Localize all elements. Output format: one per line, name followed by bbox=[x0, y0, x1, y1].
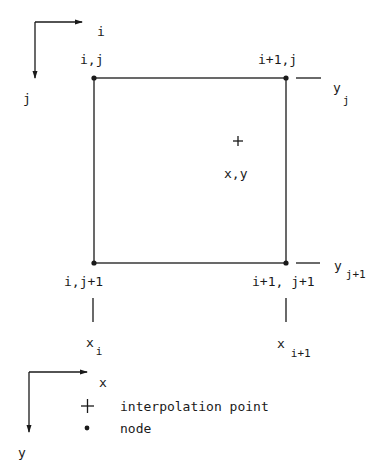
interpolation-point-label: x,y bbox=[224, 166, 248, 181]
legend-node-label: node bbox=[120, 421, 151, 436]
x-i-label: xi bbox=[86, 335, 102, 358]
y-j1-label: yj+1 bbox=[334, 258, 366, 281]
node-dot bbox=[91, 260, 96, 265]
x-axis-label: x bbox=[99, 375, 107, 390]
interpolation-point: x,y bbox=[224, 136, 248, 181]
node-label-i1-j1: i+1, j+1 bbox=[252, 274, 315, 289]
node-dot bbox=[91, 75, 96, 80]
y-axis-label: y bbox=[18, 445, 26, 460]
node-dot bbox=[283, 75, 288, 80]
i-axis-label: i bbox=[97, 24, 105, 39]
coordinate-axes: x y bbox=[18, 372, 107, 460]
j-axis-label: j bbox=[23, 91, 31, 106]
legend-node-dot-icon bbox=[85, 426, 90, 431]
legend-interpolation-point-label: interpolation point bbox=[120, 399, 269, 414]
legend: interpolation point node bbox=[81, 399, 269, 436]
x-i1-label: xi+1 bbox=[277, 336, 311, 360]
grid-cell bbox=[94, 78, 286, 263]
bilinear-interpolation-diagram: i j i,j i+1,j i,j+1 i+1, j+1 x,y yj yj+1… bbox=[0, 0, 388, 466]
y-j-label: yj bbox=[333, 80, 349, 107]
node-label-i-j: i,j bbox=[80, 52, 103, 67]
node-label-i1-j: i+1,j bbox=[258, 52, 297, 67]
node-label-i-j1: i,j+1 bbox=[64, 274, 103, 289]
node-dot bbox=[283, 260, 288, 265]
